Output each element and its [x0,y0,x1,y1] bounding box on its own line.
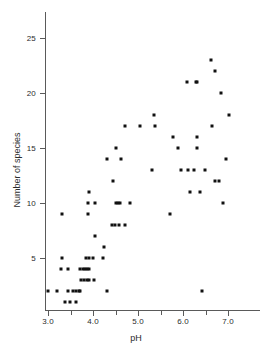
data-point [60,257,63,260]
x-axis-label: pH [0,333,272,343]
data-point [213,70,216,73]
x-tick-label: 4.0 [87,317,99,326]
data-point [47,290,50,293]
y-tick-label: 25 [16,34,36,43]
data-point [193,169,196,172]
data-point [196,81,199,84]
data-point [119,158,122,161]
data-point [151,169,154,172]
data-point [224,158,227,161]
data-point [115,147,118,150]
data-point [63,301,66,304]
data-point [176,147,179,150]
data-point [118,224,121,227]
y-axis-label: Number of species [12,95,22,245]
x-tick [93,311,94,316]
data-point [227,114,230,117]
data-point [56,290,59,293]
data-point [67,290,70,293]
data-point [152,114,155,117]
data-point [139,125,142,128]
data-point [214,180,217,183]
x-tick [206,311,207,315]
data-point [203,169,206,172]
x-tick [183,311,184,316]
x-tick-label: 3.0 [42,317,54,326]
x-tick-label: 5.0 [132,317,144,326]
data-point [200,290,203,293]
x-tick [161,311,162,315]
x-tick-label: 6.0 [177,317,189,326]
data-point [128,202,131,205]
data-point [87,191,90,194]
data-point [88,279,91,282]
x-tick [71,311,72,315]
plot-area [45,12,260,310]
data-point [103,246,106,249]
data-point [92,257,95,260]
data-point [105,158,108,161]
data-point [199,191,202,194]
x-tick [48,311,49,316]
data-point [87,257,90,260]
data-point [112,180,115,183]
x-tick [138,311,139,316]
data-point [185,81,188,84]
data-point [87,268,90,271]
data-point [59,268,62,271]
data-point [94,235,97,238]
data-point [74,301,77,304]
data-point [186,169,189,172]
data-point [195,136,198,139]
x-tick-label: 7.0 [222,317,234,326]
data-point [86,202,89,205]
data-point [106,290,109,293]
x-tick [116,311,117,315]
data-point [211,125,214,128]
data-point [123,224,126,227]
data-point [124,125,127,128]
data-point [179,169,182,172]
data-point [67,268,70,271]
data-point [101,257,104,260]
data-point [188,191,191,194]
data-point [196,147,199,150]
data-point [209,59,212,62]
data-point [119,202,122,205]
data-point [68,301,71,304]
x-tick [228,311,229,316]
data-point [154,125,157,128]
data-point [113,224,116,227]
data-point [94,202,97,205]
data-point [92,279,95,282]
data-point [220,92,223,95]
data-point [60,213,63,216]
scatter-plot-figure: 3.04.05.06.07.0 510152025 pH Number of s… [0,0,272,353]
y-tick-label: 5 [16,254,36,263]
data-point [168,213,171,216]
data-point [221,202,224,205]
data-point [86,213,89,216]
data-point [218,180,221,183]
data-point [78,290,81,293]
data-point [172,136,175,139]
